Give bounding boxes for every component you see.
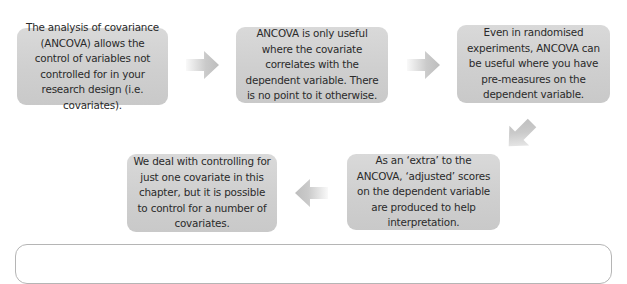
step-box-1: The analysis of covariance (ANCOVA) allo… — [17, 28, 168, 105]
step-text-5: We deal with controlling for just one co… — [133, 154, 271, 232]
arrow-left-icon — [294, 178, 328, 208]
arrow-down-left-icon — [502, 118, 538, 152]
step-text-2: ANCOVA is only useful where the covariat… — [242, 26, 382, 104]
bottom-panel — [15, 244, 612, 284]
step-text-4: As an ‘extra’ to the ANCOVA, ‘adjusted’ … — [353, 153, 494, 231]
step-box-2: ANCOVA is only useful where the covariat… — [236, 27, 388, 103]
step-box-4: As an ‘extra’ to the ANCOVA, ‘adjusted’ … — [347, 154, 500, 230]
step-text-3: Even in randomised experiments, ANCOVA c… — [463, 25, 604, 103]
arrow-right-icon — [407, 50, 441, 80]
step-box-3: Even in randomised experiments, ANCOVA c… — [457, 25, 610, 103]
arrow-right-icon — [186, 50, 220, 80]
step-box-5: We deal with controlling for just one co… — [127, 154, 277, 232]
step-text-1: The analysis of covariance (ANCOVA) allo… — [23, 20, 162, 113]
